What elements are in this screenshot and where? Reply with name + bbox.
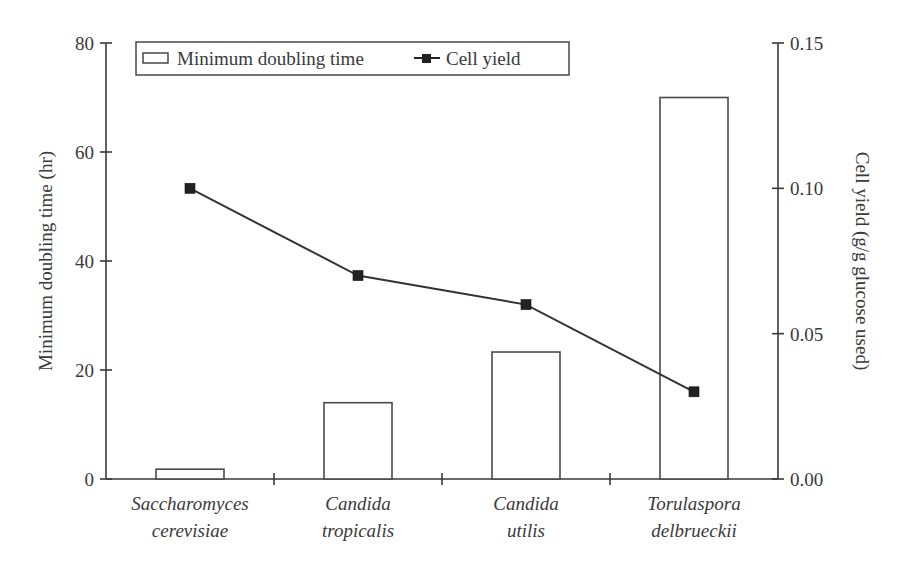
left-tick-label: 0 bbox=[85, 469, 95, 490]
left-tick-label: 20 bbox=[75, 360, 94, 381]
bar bbox=[324, 403, 392, 479]
category-label: cerevisiae bbox=[152, 520, 228, 541]
category-label: utilis bbox=[507, 520, 545, 541]
right-tick-label: 0.05 bbox=[790, 324, 823, 345]
left-tick-label: 60 bbox=[75, 142, 94, 163]
chart: 020406080 0.000.050.100.15 Saccharomyces… bbox=[0, 0, 907, 562]
left-y-axis: 020406080 bbox=[75, 33, 112, 490]
square-marker bbox=[353, 271, 363, 281]
bar bbox=[660, 98, 728, 480]
bar-series-doubling-time bbox=[156, 98, 728, 480]
category-label: Candida bbox=[325, 493, 390, 514]
line-series-cell-yield bbox=[185, 183, 699, 396]
square-marker bbox=[521, 300, 531, 310]
bar bbox=[156, 469, 224, 479]
cell-yield-line bbox=[190, 188, 694, 391]
category-label: Candida bbox=[493, 493, 558, 514]
square-marker-legend-icon bbox=[422, 54, 431, 63]
square-marker bbox=[689, 387, 699, 397]
left-tick-label: 80 bbox=[75, 33, 94, 54]
category-label: delbrueckii bbox=[651, 520, 736, 541]
right-y-axis: 0.000.050.100.15 bbox=[772, 33, 823, 490]
bar-legend-icon bbox=[143, 53, 168, 63]
right-tick-label: 0.15 bbox=[790, 33, 823, 54]
legend-label-doubling-time: Minimum doubling time bbox=[177, 48, 364, 69]
right-axis-title: Cell yield (g/g glucose used) bbox=[851, 152, 873, 370]
square-marker bbox=[185, 183, 195, 193]
bar bbox=[492, 352, 560, 479]
left-tick-label: 40 bbox=[75, 251, 94, 272]
legend: Minimum doubling time Cell yield bbox=[136, 42, 569, 75]
category-label: Torulaspora bbox=[647, 493, 740, 514]
x-axis: SaccharomycescerevisiaeCandidatropicalis… bbox=[106, 473, 778, 541]
left-axis-title: Minimum doubling time (hr) bbox=[35, 151, 57, 371]
legend-label-cell-yield: Cell yield bbox=[446, 48, 521, 69]
right-tick-label: 0.00 bbox=[790, 469, 823, 490]
category-label: Saccharomyces bbox=[131, 493, 248, 514]
category-label: tropicalis bbox=[322, 520, 394, 541]
right-tick-label: 0.10 bbox=[790, 178, 823, 199]
